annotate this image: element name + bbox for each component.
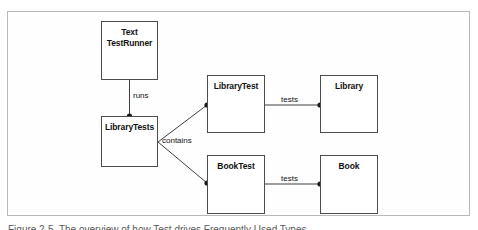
node-label-book-test: BookTest — [208, 156, 264, 172]
node-text-test-runner[interactable]: Text TestRunner — [101, 21, 158, 80]
edge-label-contains: contains — [162, 136, 192, 145]
node-book[interactable]: Book — [320, 155, 378, 214]
node-library-tests[interactable]: LibraryTests — [101, 116, 158, 167]
node-label-library-tests: LibraryTests — [102, 117, 157, 133]
edge-line-contains-book — [158, 142, 207, 183]
edge-label-runs: runs — [133, 91, 149, 100]
node-label-text-test-runner: Text TestRunner — [102, 22, 157, 48]
node-label-library: Library — [321, 76, 377, 92]
node-label-book: Book — [321, 156, 377, 172]
node-book-test[interactable]: BookTest — [207, 155, 265, 214]
node-library-test[interactable]: LibraryTest — [207, 75, 265, 133]
node-label-library-test: LibraryTest — [208, 76, 264, 92]
edge-label-tests-library: tests — [281, 95, 298, 104]
edge-label-tests-book: tests — [281, 174, 298, 183]
node-library[interactable]: Library — [320, 75, 378, 133]
figure-container: Text TestRunner LibraryTests LibraryTest… — [0, 0, 478, 230]
figure-caption: Figure 2-5. The overview of how Test dri… — [8, 224, 478, 230]
